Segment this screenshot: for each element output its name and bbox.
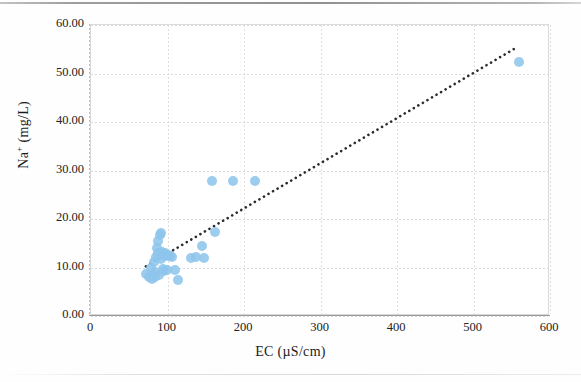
scatter-point xyxy=(156,228,166,238)
gridline-vertical xyxy=(397,25,398,314)
scatter-point xyxy=(228,176,238,186)
gridline-vertical xyxy=(550,25,551,314)
figure: Na+ (mg/L) 0.0010.0020.0030.0040.0050.00… xyxy=(0,0,581,382)
scatter-point xyxy=(199,253,209,263)
gridline-vertical xyxy=(321,25,322,314)
gridline-horizontal xyxy=(91,219,548,220)
gridline-horizontal xyxy=(91,171,548,172)
x-axis-tick-label: 400 xyxy=(366,320,426,335)
scan-artifact-bottom xyxy=(0,374,581,375)
x-axis-tick-label: 0 xyxy=(60,320,120,335)
gridline-vertical xyxy=(474,25,475,314)
y-axis-tick-label: 50.00 xyxy=(0,65,92,80)
y-axis-tick-label: 20.00 xyxy=(0,210,92,225)
scatter-point xyxy=(250,176,260,186)
y-axis-tick-label: 10.00 xyxy=(0,259,92,274)
scan-artifact-top xyxy=(0,2,581,4)
gridline-horizontal xyxy=(91,25,548,26)
y-axis-tick-label: 60.00 xyxy=(0,16,92,31)
plot-area xyxy=(90,24,549,315)
x-axis-tick-label: 300 xyxy=(290,320,350,335)
x-axis-tick-label: 100 xyxy=(137,320,197,335)
x-axis-tick-label: 500 xyxy=(443,320,503,335)
y-axis-tick-label: 30.00 xyxy=(0,162,92,177)
gridline-horizontal xyxy=(91,316,548,317)
y-axis-title-superscript: + xyxy=(14,146,24,151)
y-axis-title: Na+ (mg/L) xyxy=(14,60,32,210)
gridline-horizontal xyxy=(91,74,548,75)
y-axis-tick-label: 40.00 xyxy=(0,113,92,128)
x-axis-title: EC (µS/cm) xyxy=(0,344,581,360)
x-axis-tick-label: 600 xyxy=(519,320,579,335)
scatter-point xyxy=(210,227,220,237)
gridline-vertical xyxy=(244,25,245,314)
scatter-point xyxy=(167,252,177,262)
x-axis-tick-label: 200 xyxy=(213,320,273,335)
gridline-horizontal xyxy=(91,122,548,123)
